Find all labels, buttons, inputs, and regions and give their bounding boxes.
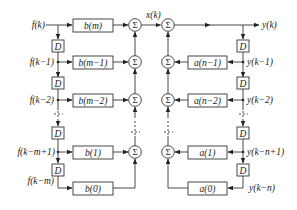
delay-label: D <box>54 129 62 139</box>
arrow-a0-to-rsum4 <box>168 159 188 188</box>
coeff-label: a(1) <box>200 148 216 159</box>
delay-label: D <box>54 79 62 89</box>
coeff-label: a(n−2) <box>194 96 221 107</box>
coeff-label: b(0) <box>85 184 101 195</box>
input-label-f-k-m-1: f(k−m+1) <box>17 147 55 158</box>
coeff-label: b(1) <box>85 148 101 159</box>
coeff-label: b(m) <box>84 21 102 32</box>
tap-label-y-k-1: y(k−1) <box>246 57 273 68</box>
coeff-label: a(0) <box>200 184 216 195</box>
arrow-to-a0 <box>228 176 243 188</box>
arrow-head-mid <box>205 23 211 27</box>
sum-symbol: Σ <box>165 57 170 67</box>
tap-label-y-k-n: y(k−n) <box>248 183 275 194</box>
tap-label-y-k-2: y(k−2) <box>246 95 273 106</box>
delay-label: D <box>54 166 62 176</box>
input-label-f-k-m: f(k−m) <box>28 176 54 187</box>
tap-label-y-k-n-1: y(k−n+1) <box>246 147 284 158</box>
delay-label: D <box>239 129 247 139</box>
delay-label: D <box>239 79 247 89</box>
sum-symbol: Σ <box>132 147 137 157</box>
input-label-f-k-1: f(k−1) <box>30 57 54 68</box>
sum-symbol: Σ <box>132 95 137 105</box>
sum-symbol: Σ <box>132 57 137 67</box>
arrow-b0-to-sum <box>113 159 135 188</box>
coeff-label: b(m−1) <box>78 58 107 69</box>
sum-symbol: Σ <box>132 20 137 30</box>
intermediate-signal-label: x(k) <box>145 10 161 21</box>
delay-label: D <box>239 42 247 52</box>
sum-symbol: Σ <box>165 20 170 30</box>
input-label-f-k-2: f(k−2) <box>30 95 54 106</box>
coeff-label: a(n−1) <box>194 58 221 69</box>
input-label-f-k: f(k) <box>32 20 45 31</box>
arrow-to-b0 <box>58 176 72 188</box>
coeff-label: b(m−2) <box>78 96 107 107</box>
delay-label: D <box>54 42 62 52</box>
sum-symbol: Σ <box>165 95 170 105</box>
delay-label: D <box>239 166 247 176</box>
sum-symbol: Σ <box>165 147 170 157</box>
block-diagram: f(k) f(k−1) f(k−2) f(k−m+1) f(k−m) D D D… <box>0 0 297 210</box>
output-signal-label: y(k) <box>261 20 277 31</box>
